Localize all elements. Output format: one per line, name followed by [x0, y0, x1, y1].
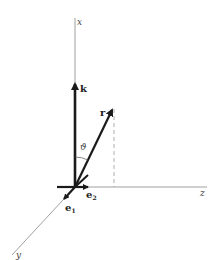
x-axis-label: x: [77, 17, 82, 27]
e1-vector: [64, 187, 75, 199]
theta-arc: [75, 157, 88, 160]
k-label: k: [80, 83, 88, 94]
theta-label: ϑ: [80, 142, 87, 152]
e2-label: e2: [86, 189, 97, 201]
r-label: r: [100, 107, 106, 118]
z-axis-label: z: [199, 188, 205, 198]
e1-label: e1: [65, 202, 76, 214]
coordinate-diagram: x z y k r ϑ e1 e2: [0, 0, 218, 260]
y-axis-label: y: [15, 250, 22, 260]
